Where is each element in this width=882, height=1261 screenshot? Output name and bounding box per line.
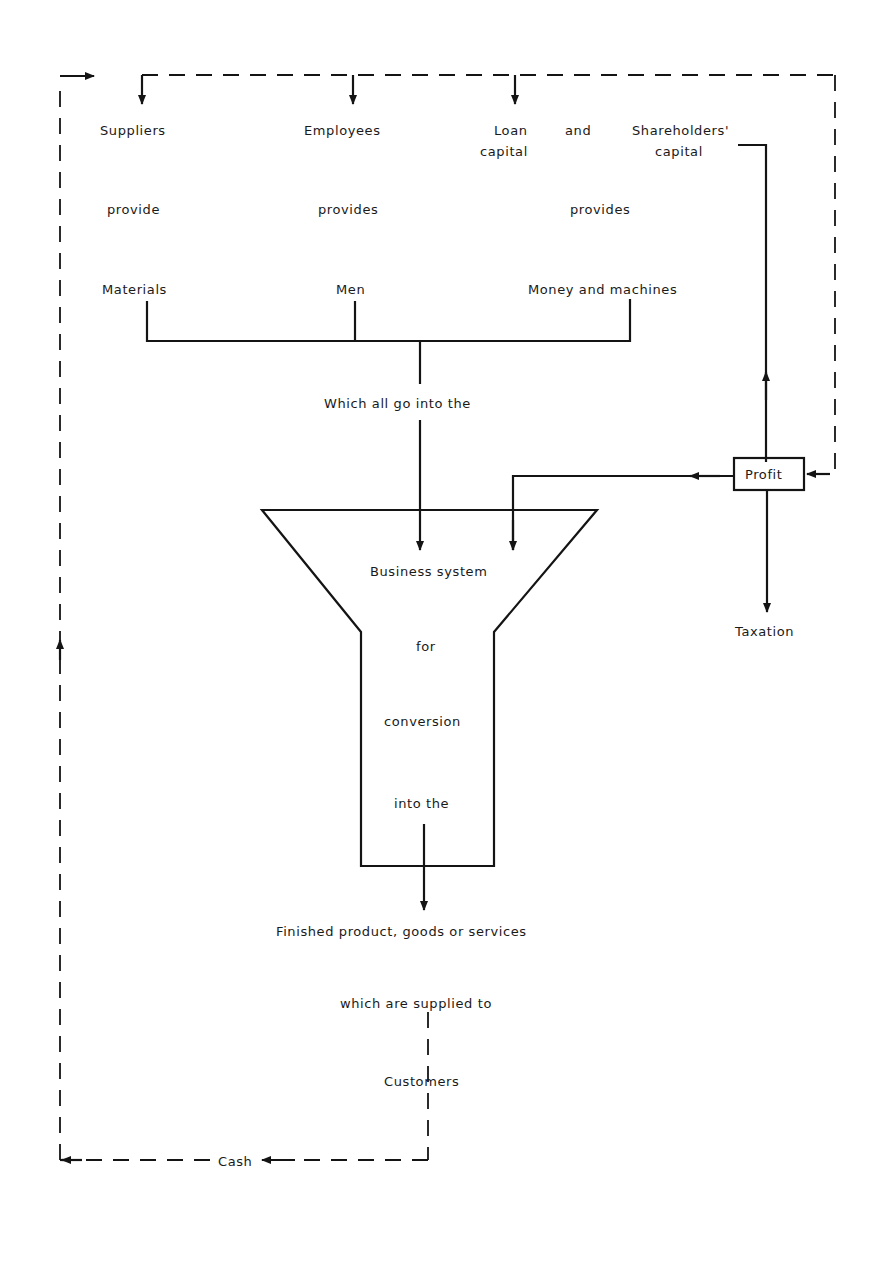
label-loan-capital: capital [480, 144, 528, 159]
label-conversion: conversion [384, 714, 461, 729]
label-cash: Cash [218, 1154, 252, 1169]
label-finished-product: Finished product, goods or services [276, 924, 527, 939]
label-men: Men [336, 282, 365, 297]
label-materials: Materials [102, 282, 167, 297]
label-into-the: into the [394, 796, 449, 811]
label-loan: Loan [494, 123, 528, 138]
label-provides-employees: provides [318, 202, 378, 217]
label-merge: Which all go into the [324, 396, 471, 411]
label-and: and [565, 123, 591, 138]
profit-reinvest-line [513, 476, 734, 550]
label-taxation: Taxation [734, 624, 794, 639]
label-customers: Customers [384, 1074, 459, 1089]
label-provide: provide [107, 202, 160, 217]
label-for: for [416, 639, 436, 654]
label-business-system: Business system [370, 564, 487, 579]
business-system-diagram: Suppliers Employees Loan and capital Sha… [0, 0, 882, 1261]
label-shareholders-capital: capital [655, 144, 703, 159]
label-profit: Profit [745, 467, 783, 482]
label-provides-capital: provides [570, 202, 630, 217]
label-money-machines: Money and machines [528, 282, 677, 297]
shareholders-line [738, 145, 766, 462]
merge-bracket [147, 299, 630, 341]
label-employees: Employees [304, 123, 381, 138]
label-suppliers: Suppliers [100, 123, 166, 138]
label-supplied-to: which are supplied to [340, 996, 492, 1011]
label-shareholders: Shareholders' [632, 123, 729, 138]
